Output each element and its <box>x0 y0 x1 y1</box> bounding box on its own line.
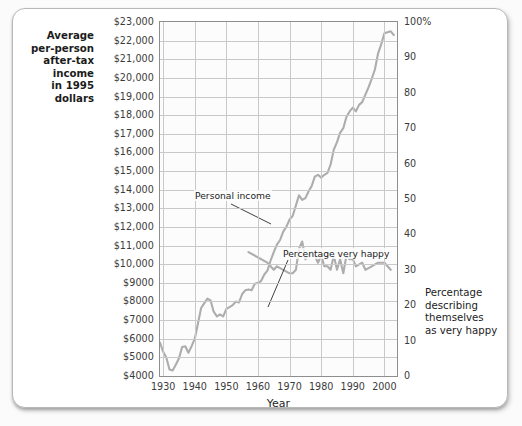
left-axis-tick-label: $15,000 <box>96 165 154 176</box>
x-axis-title: Year <box>159 397 398 410</box>
gridline-horizontal <box>160 152 397 153</box>
right-axis-tick-label: 90 <box>404 51 444 62</box>
right-axis-ticks: 100%9080706050403020100 <box>404 0 444 426</box>
left-axis-caption-line-3: after-tax income <box>14 55 94 80</box>
left-axis-tick-label: $10,000 <box>96 258 154 269</box>
gridline-horizontal <box>160 357 397 358</box>
gridline-vertical <box>163 22 164 376</box>
leader-line-income <box>231 204 271 224</box>
plot-area: Personal income Percentage very happy <box>159 21 398 377</box>
left-axis-tick-label: $22,000 <box>96 35 154 46</box>
gridline-horizontal <box>160 227 397 228</box>
left-axis-tick-label: $20,000 <box>96 72 154 83</box>
left-axis-caption-line-4: in 1995 dollars <box>14 80 94 105</box>
left-axis-tick-label: $23,000 <box>96 16 154 27</box>
annotation-personal-income: Personal income <box>194 190 272 201</box>
gridline-horizontal <box>160 78 397 79</box>
gridline-horizontal <box>160 339 397 340</box>
gridline-horizontal <box>160 246 397 247</box>
gridline-horizontal <box>160 59 397 60</box>
right-axis-tick-label: 10 <box>404 335 444 346</box>
left-axis-caption: Average per-person after-tax income in 1… <box>14 30 94 106</box>
chart-page: Average per-person after-tax income in 1… <box>0 0 522 426</box>
right-axis-tick-label: 20 <box>404 299 444 310</box>
right-axis-tick-label: 60 <box>404 158 444 169</box>
gridline-vertical <box>290 22 291 376</box>
right-axis-tick-label: 30 <box>404 264 444 275</box>
gridline-horizontal <box>160 283 397 284</box>
gridline-vertical <box>384 22 385 376</box>
left-axis-tick-label: $11,000 <box>96 240 154 251</box>
left-axis-tick-label: $17,000 <box>96 128 154 139</box>
x-axis-ticks: 19301940195019601970198019902000 <box>0 381 522 397</box>
gridline-horizontal <box>160 41 397 42</box>
left-axis-tick-label: $8000 <box>96 295 154 306</box>
left-axis-tick-label: $5000 <box>96 351 154 362</box>
left-axis-tick-label: $7000 <box>96 314 154 325</box>
gridline-horizontal <box>160 134 397 135</box>
right-axis-tick-label: 80 <box>404 87 444 98</box>
left-axis-tick-label: $4000 <box>96 370 154 381</box>
left-axis-tick-label: $13,000 <box>96 202 154 213</box>
left-axis-tick-label: $14,000 <box>96 184 154 195</box>
right-axis-tick-label: 70 <box>404 122 444 133</box>
left-axis-tick-label: $19,000 <box>96 91 154 102</box>
left-axis-caption-line-1: Average <box>14 30 94 43</box>
annotation-percentage-very-happy: Percentage very happy <box>282 248 390 259</box>
gridline-horizontal <box>160 171 397 172</box>
left-axis-ticks: $23,000$22,000$21,000$20,000$19,000$18,0… <box>96 0 154 426</box>
right-axis-tick-label: 40 <box>404 228 444 239</box>
right-axis-tick-label: 50 <box>404 193 444 204</box>
gridline-horizontal <box>160 115 397 116</box>
gridline-horizontal <box>160 208 397 209</box>
gridline-horizontal <box>160 301 397 302</box>
gridline-horizontal <box>160 320 397 321</box>
left-axis-tick-label: $18,000 <box>96 109 154 120</box>
gridline-horizontal <box>160 376 397 377</box>
right-axis-tick-label: 100% <box>404 16 444 27</box>
left-axis-tick-label: $16,000 <box>96 146 154 157</box>
x-axis-tick-label: 2000 <box>362 381 406 392</box>
gridline-horizontal <box>160 264 397 265</box>
right-axis-tick-label: 0 <box>404 370 444 381</box>
left-axis-tick-label: $21,000 <box>96 53 154 64</box>
gridline-vertical <box>353 22 354 376</box>
left-axis-caption-line-2: per-person <box>14 43 94 56</box>
left-axis-tick-label: $12,000 <box>96 221 154 232</box>
left-axis-tick-label: $6000 <box>96 333 154 344</box>
left-axis-tick-label: $9000 <box>96 277 154 288</box>
gridline-horizontal <box>160 97 397 98</box>
gridline-vertical <box>321 22 322 376</box>
